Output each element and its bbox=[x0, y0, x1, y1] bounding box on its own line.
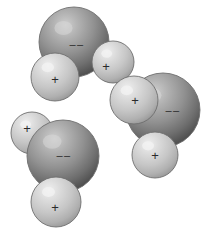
partial-positive-charge-label: + bbox=[51, 200, 59, 215]
sphere-highlight bbox=[54, 21, 72, 35]
partial-positive-charge-label: + bbox=[102, 59, 110, 74]
partial-positive-charge-label: + bbox=[23, 121, 31, 136]
water-molecule-right-hydrogen-atom-lower: + bbox=[132, 132, 178, 178]
partial-positive-charge-label: + bbox=[151, 148, 159, 163]
sphere-highlight bbox=[101, 49, 112, 57]
water-molecule-top-left-hydrogen-atom-lower-left: + bbox=[31, 53, 79, 101]
sphere-highlight bbox=[42, 187, 55, 197]
partial-negative-charge-label: –– bbox=[165, 104, 180, 116]
water-molecule-bottom-left-hydrogen-atom-bottom: + bbox=[31, 177, 81, 227]
partial-negative-charge-label: –– bbox=[56, 149, 71, 161]
partial-negative-charge-label: –– bbox=[69, 38, 84, 50]
water-molecule-right-hydrogen-atom-upper-left: + bbox=[110, 76, 158, 124]
partial-positive-charge-label: + bbox=[51, 72, 59, 87]
water-cluster-figure: ––++––+++––+ bbox=[0, 0, 212, 233]
partial-positive-charge-label: + bbox=[131, 93, 139, 108]
sphere-highlight bbox=[43, 134, 62, 148]
molecule-scene-svg: ––++––+++––+ bbox=[0, 0, 212, 233]
